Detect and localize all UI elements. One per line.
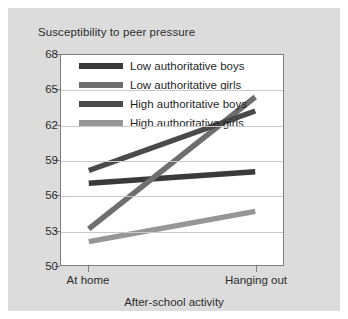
y-tick-label: 53 [34,225,58,237]
gridline [61,161,283,162]
legend-label: High authoritative boys [130,97,247,111]
legend-swatch-icon [79,82,123,88]
legend-item-3[interactable]: High authoritative girls [79,116,247,130]
x-tick-label: Hanging out [225,274,287,286]
y-tick-label: 56 [34,189,58,201]
gridline [61,196,283,197]
x-tick-mark [88,266,89,272]
y-tick-label: 50 [34,260,58,272]
y-tick-label: 59 [34,154,58,166]
legend-item-2[interactable]: High authoritative boys [79,97,247,111]
chart-title: Susceptibility to peer pressure [38,26,195,38]
legend: Low authoritative boysLow authoritative … [79,59,247,130]
y-tick-label: 62 [34,119,58,131]
plot-area: Low authoritative boysLow authoritative … [60,54,284,266]
legend-swatch-icon [79,101,123,107]
gridline [61,90,283,91]
legend-swatch-icon [79,63,123,69]
y-tick-label: 65 [34,83,58,95]
series-line-0 [89,172,256,184]
y-tick-label: 68 [34,48,58,60]
legend-label: Low authoritative boys [130,59,244,73]
gridline [61,126,283,127]
x-tick-label: At home [67,274,110,286]
legend-label: High authoritative girls [130,116,244,130]
gridline [61,232,283,233]
figure-panel: Susceptibility to peer pressure Low auth… [8,8,340,311]
x-axis-title: After-school activity [8,296,340,308]
x-tick-mark [256,266,257,272]
series-line-3 [89,211,256,241]
legend-item-0[interactable]: Low authoritative boys [79,59,247,73]
